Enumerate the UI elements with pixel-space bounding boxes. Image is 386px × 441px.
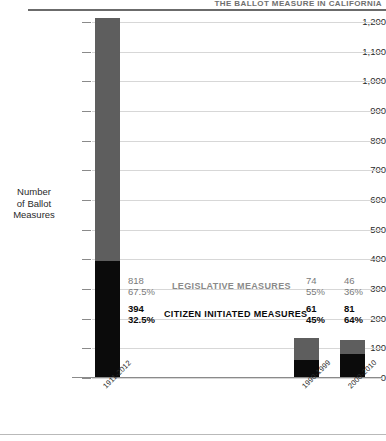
y-tick-mark <box>82 259 91 260</box>
y-tick-mark <box>82 81 91 82</box>
annotation-value: 394 <box>128 304 155 315</box>
annotation-legislative-2000-2010: 4636% <box>344 276 363 297</box>
y-tick-mark <box>82 111 91 112</box>
annotation-citizen-2000-2010: 8164% <box>344 304 363 325</box>
y-axis-title-line-2: of Ballot <box>4 198 64 210</box>
bar-segment-legislative <box>294 338 319 360</box>
annotation-percent: 32.5% <box>128 315 155 326</box>
annotation-value: 818 <box>128 276 155 287</box>
annotation-percent: 45% <box>306 315 325 326</box>
footer-rule <box>0 434 386 435</box>
gridline <box>92 200 382 201</box>
y-tick-mark <box>82 200 91 201</box>
bar-segment-legislative <box>95 18 120 261</box>
y-tick-mark <box>82 230 91 231</box>
bar-1911-2012 <box>95 18 120 378</box>
gridline <box>92 111 382 112</box>
gridline <box>92 170 382 171</box>
y-axis-title: Number of Ballot Measures <box>4 186 64 221</box>
gridline <box>92 141 382 142</box>
annotation-percent: 55% <box>306 287 325 298</box>
gridline <box>92 378 382 379</box>
series-label-citizen: CITIZEN INITIATED MEASURES <box>164 309 307 319</box>
annotation-legislative-1911-2012: 81867.5% <box>128 276 155 297</box>
annotation-percent: 64% <box>344 315 363 326</box>
series-label-legislative: LEGISLATIVE MEASURES <box>172 281 291 291</box>
annotation-value: 46 <box>344 276 363 287</box>
gridline <box>92 348 382 349</box>
annotation-citizen-1911-2012: 39432.5% <box>128 304 155 325</box>
bar-segment-legislative <box>340 340 365 354</box>
annotation-value: 61 <box>306 304 325 315</box>
y-tick-mark <box>82 289 91 290</box>
annotation-legislative-1990-1999: 7455% <box>306 276 325 297</box>
gridline <box>92 259 382 260</box>
y-tick-mark <box>82 348 91 349</box>
annotation-percent: 36% <box>344 287 363 298</box>
page-running-head: THE BALLOT MEASURE IN CALIFORNIA <box>0 0 386 6</box>
gridline <box>92 22 382 23</box>
y-tick-mark <box>82 22 91 23</box>
header-rule <box>28 9 386 11</box>
gridline <box>92 230 382 231</box>
annotation-citizen-1990-1999: 6145% <box>306 304 325 325</box>
y-axis-title-line-3: Measures <box>4 209 64 221</box>
y-tick-mark <box>82 52 91 53</box>
y-tick-mark <box>82 170 91 171</box>
gridline <box>92 52 382 53</box>
annotation-value: 74 <box>306 276 325 287</box>
bar-segment-citizen <box>95 261 120 378</box>
annotation-percent: 67.5% <box>128 287 155 298</box>
y-tick-mark <box>82 378 91 379</box>
annotation-value: 81 <box>344 304 363 315</box>
y-axis-title-line-1: Number <box>4 186 64 198</box>
gridline <box>92 81 382 82</box>
y-tick-mark <box>82 141 91 142</box>
y-tick-mark <box>82 319 91 320</box>
